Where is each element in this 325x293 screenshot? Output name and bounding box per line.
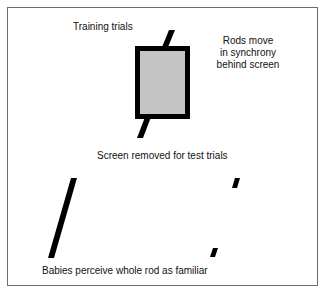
occluding-screen (138, 49, 188, 117)
training-trials-label: Training trials (73, 21, 133, 33)
complete-rod (48, 178, 77, 258)
broken-rod-top (232, 178, 240, 188)
conclusion-label: Babies perceive whole rod as familiar (42, 265, 208, 277)
rods-note-line-2: in synchrony (208, 47, 288, 59)
broken-rod-bottom (210, 248, 218, 257)
rods-note-line-3: behind screen (208, 59, 288, 71)
test-trials-label: Screen removed for test trials (97, 150, 228, 162)
rods-move-note: Rods move in synchrony behind screen (208, 35, 288, 71)
training-rod-bottom (137, 117, 151, 138)
rods-note-line-1: Rods move (208, 35, 288, 47)
